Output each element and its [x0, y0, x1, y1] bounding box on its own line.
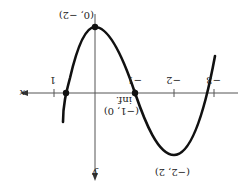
- x-intercept-dot: [63, 90, 69, 96]
- y-axis: [92, 14, 98, 181]
- graph-figure: x y 1 −1 −2 −3 (0, −2) inf. (−1, 0) (−2,…: [0, 0, 244, 194]
- max-point-dot: [92, 24, 98, 30]
- x-tick-label-neg1: −1: [127, 75, 142, 86]
- inflection-note-label: inf.: [116, 95, 132, 106]
- bottom-point-label: (−2, 2): [155, 167, 190, 178]
- y-axis-label: y: [92, 168, 99, 179]
- inflection-point-label: (−1, 0): [104, 106, 139, 117]
- cubic-curve: [63, 27, 215, 155]
- top-point-label: (0, −2): [59, 10, 94, 21]
- x-tick-label-neg3: −3: [206, 75, 221, 86]
- x-axis-label: x: [19, 88, 25, 99]
- x-tick-label-neg2: −2: [166, 75, 181, 86]
- x-tick-label-1: 1: [50, 75, 56, 86]
